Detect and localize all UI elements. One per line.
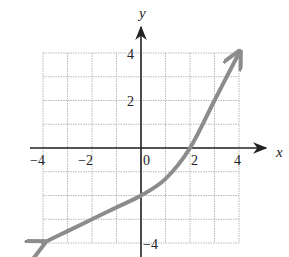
x-tick-label: −4 [30,153,45,168]
x-tick-label: 4 [234,153,241,168]
y-tick-label: 2 [127,94,134,109]
graph-plot: x y −4 −2 0 2 4 4 2 −4 [0,0,289,257]
y-tick-label: −4 [143,237,158,252]
x-tick-label: −2 [78,153,93,168]
y-tick-label: 4 [127,47,134,62]
x-tick-label: 0 [143,153,150,168]
x-tick-label: 2 [191,153,198,168]
y-axis-label: y [137,5,146,21]
x-axis-label: x [275,144,283,160]
